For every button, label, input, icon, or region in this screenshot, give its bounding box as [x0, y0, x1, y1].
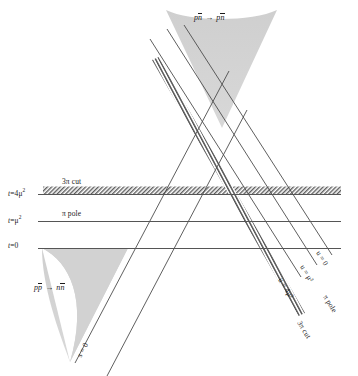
region-label-pnbar: pn→pn	[194, 13, 225, 22]
axis-label-t-mu2: t=μ2	[8, 214, 21, 225]
axis-label-t-0: t=0	[8, 241, 18, 250]
u-0-line	[184, 25, 332, 255]
axis-label-t-4mu2-value: 4μ	[15, 189, 23, 198]
axis-label-t-0-value: 0	[15, 241, 19, 250]
region-label-pnbar-left-bar: n	[198, 13, 202, 22]
line-label-pi-pole-left: π pole	[62, 209, 81, 218]
region-label-pnbar-arrow: →	[202, 13, 216, 22]
s-mu2-line	[107, 110, 247, 376]
region-label-pnbar-right-bar: n	[220, 13, 224, 22]
axis-label-t-4mu2: t=4μ2	[8, 187, 25, 198]
region-label-ppbar-right-bar: n	[60, 283, 64, 292]
axis-label-t-mu2-exp: 2	[19, 214, 22, 220]
region-label-ppbar: pp→nn	[34, 283, 65, 292]
mandelstam-diagram	[0, 0, 358, 376]
region-label-ppbar-left-bar: p	[38, 283, 42, 292]
region-label-ppbar-arrow: →	[42, 283, 56, 292]
s-0-line	[75, 71, 229, 363]
3pi-cut-band	[43, 187, 341, 195]
line-label-3pi-cut-top: 3π cut	[62, 177, 81, 186]
axis-label-t-4mu2-exp: 2	[23, 187, 26, 193]
